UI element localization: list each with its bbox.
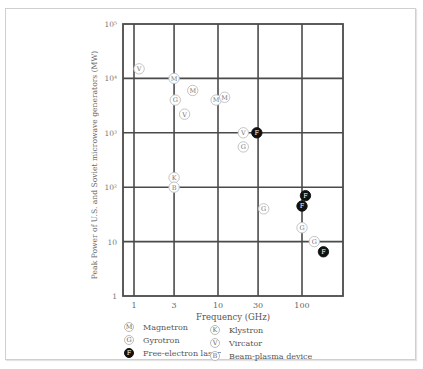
- data-point-gyrotron: G: [259, 204, 269, 214]
- y-tick-label: 10⁴: [104, 74, 117, 83]
- scatter-plot: 131030100Frequency (GHz)11010²10³10⁴10⁵P…: [0, 0, 423, 369]
- legend-item-gyrotron: G Gyrotron: [124, 335, 180, 345]
- data-point-gyrotron: G: [309, 236, 319, 246]
- data-point-gyrotron: G: [170, 95, 180, 105]
- svg-text:M: M: [171, 75, 178, 83]
- svg-text:G: G: [241, 143, 246, 151]
- vircator-symbol-icon: V: [210, 338, 220, 348]
- svg-text:V: V: [240, 129, 246, 137]
- svg-text:F: F: [303, 192, 308, 200]
- data-point-klystron: K: [169, 172, 179, 182]
- x-tick-label: 30: [253, 301, 263, 310]
- data-point-vircator: V: [134, 64, 144, 74]
- data-point-beam-plasma-device: B: [169, 182, 179, 192]
- data-point-vircator: V: [238, 128, 248, 138]
- svg-text:M: M: [213, 96, 220, 104]
- data-point-free-electron-laser: F: [318, 247, 328, 257]
- legend-item-free-electron-laser: F Free-electron laser: [124, 348, 221, 358]
- y-axis-title: Peak Power of U.S. and Soviet microwave …: [90, 51, 99, 279]
- svg-text:F: F: [300, 202, 305, 210]
- x-tick-label: 100: [294, 301, 309, 310]
- y-tick-label: 10³: [104, 129, 117, 138]
- magnetron-symbol-icon: M: [124, 322, 134, 332]
- x-tick-labels: 131030100: [131, 301, 309, 310]
- data-point-free-electron-laser: F: [297, 201, 307, 211]
- legend-item-beam-plasma-device: B Beam-plasma device: [210, 351, 312, 361]
- svg-text:B: B: [172, 184, 177, 192]
- svg-text:F: F: [255, 129, 260, 137]
- svg-text:G: G: [299, 224, 304, 232]
- legend-label: Gyrotron: [143, 336, 180, 345]
- data-points: MMMMGGGGGFFFFKVVVB: [134, 64, 329, 257]
- data-point-gyrotron: G: [238, 142, 248, 152]
- y-tick-label: 1: [112, 292, 117, 301]
- x-axis-title: Frequency (GHz): [196, 312, 270, 322]
- svg-text:G: G: [173, 96, 178, 104]
- y-tick-labels: 11010²10³10⁴10⁵: [104, 20, 117, 301]
- x-tick-label: 3: [172, 301, 177, 310]
- data-point-gyrotron: G: [297, 223, 307, 233]
- x-tick-label: 1: [131, 301, 136, 310]
- data-point-magnetron: M: [188, 85, 198, 95]
- svg-text:K: K: [172, 174, 177, 182]
- x-tick-label: 10: [213, 301, 223, 310]
- legend-item-vircator: V Vircator: [210, 338, 262, 348]
- legend-label: Vircator: [229, 339, 262, 348]
- legend-item-klystron: K Klystron: [210, 325, 263, 335]
- data-point-free-electron-laser: F: [252, 128, 262, 138]
- y-tick-label: 10²: [104, 183, 117, 192]
- svg-text:G: G: [261, 205, 266, 213]
- plot-frame: [123, 24, 343, 296]
- legend-label: Klystron: [229, 326, 263, 335]
- y-tick-label: 10: [107, 238, 117, 247]
- svg-text:F: F: [321, 248, 326, 256]
- legend-label: Beam-plasma device: [229, 352, 312, 361]
- data-point-free-electron-laser: F: [300, 190, 310, 200]
- data-point-vircator: V: [179, 109, 189, 119]
- grid: [123, 24, 343, 296]
- data-point-magnetron: M: [169, 73, 179, 83]
- svg-text:M: M: [221, 94, 228, 102]
- svg-text:M: M: [189, 87, 196, 95]
- svg-text:V: V: [181, 111, 187, 119]
- gyrotron-symbol-icon: G: [124, 335, 134, 345]
- svg-text:G: G: [312, 238, 317, 246]
- klystron-symbol-icon: K: [210, 325, 220, 335]
- beam-plasma-symbol-icon: B: [210, 351, 220, 361]
- data-point-magnetron: M: [219, 92, 229, 102]
- svg-text:V: V: [136, 65, 142, 73]
- legend-label: Magnetron: [143, 323, 188, 332]
- legend-item-magnetron: M Magnetron: [124, 322, 188, 332]
- free-electron-laser-symbol-icon: F: [124, 348, 134, 358]
- legend: M Magnetron G Gyrotron F Free-electron l…: [124, 322, 404, 362]
- legend-label: Free-electron laser: [143, 349, 221, 358]
- y-tick-label: 10⁵: [104, 20, 117, 29]
